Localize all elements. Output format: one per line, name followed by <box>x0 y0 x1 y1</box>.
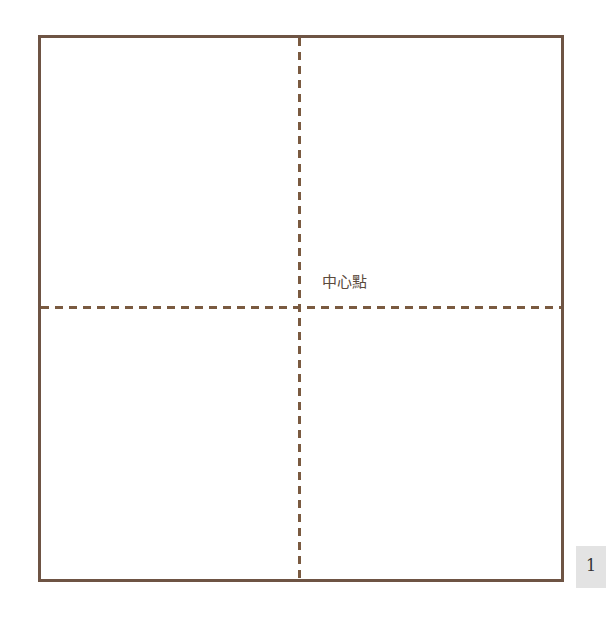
center-point-label: 中心點 <box>322 270 367 291</box>
page-number-box: 1 <box>576 546 606 588</box>
horizontal-dashed-center-line <box>41 306 561 309</box>
page-number: 1 <box>576 556 606 575</box>
